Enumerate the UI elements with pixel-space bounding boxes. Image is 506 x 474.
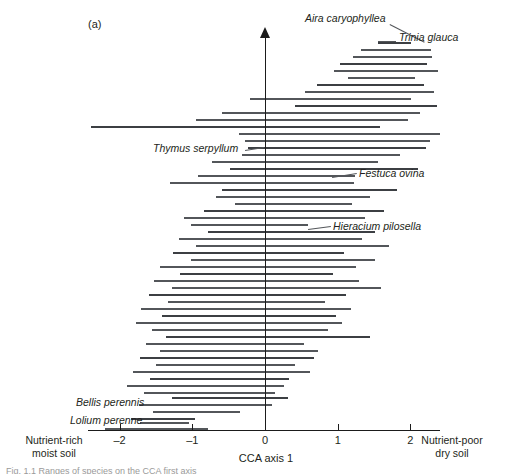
axis-tick-label: 1: [318, 434, 358, 446]
species-range-bar: [179, 238, 361, 240]
species-range-bar: [133, 371, 310, 373]
species-range-bar: [204, 210, 384, 212]
species-range-bar: [295, 105, 437, 107]
species-range-bar: [180, 273, 333, 275]
species-range-bar: [172, 397, 288, 399]
species-range-bar: [144, 392, 275, 394]
axis-tick: [120, 424, 121, 431]
species-range-bar: [184, 217, 364, 219]
species-range-bar: [166, 336, 370, 338]
species-range-bar: [162, 315, 336, 317]
axis-tick: [410, 424, 411, 431]
x-axis-title: CCA axis 1: [216, 452, 316, 464]
axis-tick: [338, 424, 339, 431]
species-range-bar: [196, 119, 408, 121]
species-label-trinia-glauca: Trinia glauca: [399, 31, 458, 43]
species-range-bar: [353, 56, 432, 58]
axis-tick-label: –2: [100, 434, 140, 446]
species-label-bellis-perennis: Bellis perennis: [76, 396, 144, 408]
figure-caption-fragment: Fig. 1.1 Ranges of species on the CCA fi…: [6, 466, 197, 474]
axis-left-end-caption: Nutrient-richmoist soil: [6, 434, 102, 460]
leader-line: [308, 226, 331, 230]
species-range-bar: [222, 189, 396, 191]
species-range-bar: [91, 126, 380, 128]
species-label-hieracium-pilosella: Hieracium pilosella: [333, 220, 421, 232]
leader-line: [148, 422, 166, 423]
species-range-bar: [245, 140, 430, 142]
species-label-thymus-serpyllum: Thymus serpyllum: [153, 142, 238, 154]
species-range-bar: [196, 245, 389, 247]
species-range-bar: [191, 259, 375, 261]
species-range-bar: [248, 147, 425, 149]
leader-line: [151, 404, 170, 405]
species-range-bar: [222, 112, 420, 114]
species-range-bar: [239, 133, 440, 135]
species-range-bar: [160, 350, 318, 352]
vertical-axis-line: [265, 36, 266, 430]
species-range-bar: [152, 329, 327, 331]
species-range-bar: [361, 49, 431, 51]
species-range-bar: [340, 63, 427, 65]
axis-tick: [265, 424, 266, 431]
species-range-bar: [212, 161, 378, 163]
species-label-lolium-perenne: Lolium perenne: [70, 414, 142, 426]
axis-tick-label: –1: [172, 434, 212, 446]
species-range-bar: [172, 287, 381, 289]
leader-line: [378, 41, 396, 42]
species-range-bar: [160, 266, 356, 268]
species-range-bar: [149, 294, 346, 296]
species-range-bar: [317, 84, 424, 86]
horizontal-axis-line: [88, 430, 440, 431]
species-range-bar: [250, 98, 411, 100]
species-range-bar: [156, 364, 295, 366]
species-range-bar: [127, 385, 284, 387]
species-range-bar: [140, 357, 314, 359]
plot-area: Aira caryophylleaTrinia glaucaThymus ser…: [0, 0, 506, 474]
species-range-bar: [191, 224, 308, 226]
cca-species-range-figure: (a) Aira caryophylleaTrinia glaucaThymus…: [0, 0, 506, 474]
species-range-bar: [146, 343, 304, 345]
species-range-bar: [154, 280, 359, 282]
species-range-bar: [170, 182, 353, 184]
axis-tick-label: 0: [245, 434, 285, 446]
species-range-bar: [136, 322, 342, 324]
species-label-aira-caryophyllea: Aira caryophyllea: [305, 12, 386, 24]
species-range-bar: [141, 308, 350, 310]
species-range-bar: [150, 378, 289, 380]
species-range-bar: [216, 196, 371, 198]
species-label-festuca-ovina: Festuca ovina: [359, 167, 424, 179]
species-range-bar: [153, 411, 240, 413]
species-range-bar: [168, 301, 325, 303]
axis-tick: [192, 424, 193, 431]
axis-right-end-caption: Nutrient-poordry soil: [404, 434, 500, 460]
species-range-bar: [173, 252, 344, 254]
species-range-bar: [348, 77, 415, 79]
species-range-bar: [305, 91, 434, 93]
species-range-bar: [235, 203, 352, 205]
species-range-bar: [334, 70, 438, 72]
